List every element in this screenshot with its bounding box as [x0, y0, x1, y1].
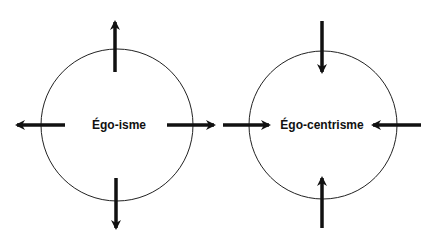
- ego-isme-group: Égo-isme: [17, 22, 214, 228]
- ego-centrisme-group: Égo-centrisme: [223, 21, 421, 228]
- ego-isme-label: Égo-isme: [92, 117, 146, 132]
- ego-centrisme-label: Égo-centrisme: [280, 117, 364, 132]
- ego-diagram: Égo-isme Égo-centrisme: [0, 0, 446, 245]
